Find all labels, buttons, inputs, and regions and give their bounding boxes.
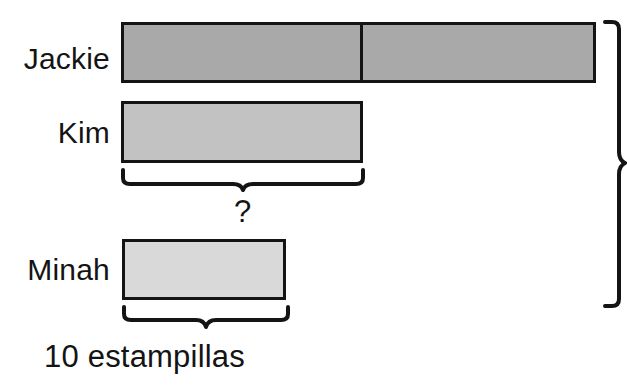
- unknown-value-marker: ?: [234, 196, 251, 227]
- bar-kim: [121, 101, 363, 163]
- brace-minah-unit: [122, 305, 290, 329]
- row-label-kim: Kim: [10, 118, 110, 148]
- row-label-minah: Minah: [5, 255, 110, 285]
- brace-kim-unknown: [121, 168, 365, 192]
- row-label-jackie: Jackie: [10, 44, 110, 74]
- brace-total-vertical: [603, 20, 627, 310]
- unit-caption: 10 estampillas: [44, 341, 245, 372]
- bar-jackie-segment-divider: [360, 22, 363, 83]
- bar-minah: [122, 239, 286, 300]
- bar-jackie: [121, 22, 596, 83]
- tape-diagram: Jackie Kim ? Minah 10 estampillas: [0, 0, 627, 386]
